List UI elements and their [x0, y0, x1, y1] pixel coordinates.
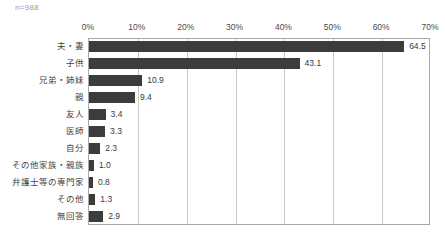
category-label: 無回答 [0, 208, 84, 225]
category-label: 夫・妻 [0, 38, 84, 55]
bar [89, 126, 105, 137]
bar [89, 58, 300, 69]
bar [89, 41, 404, 52]
bar [89, 92, 135, 103]
category-label: 医師 [0, 123, 84, 140]
bar-value-label: 2.9 [108, 208, 120, 225]
chart-rows: 夫・妻64.5子供43.1兄弟・姉妹10.9親9.4友人3.4医師3.3自分2.… [0, 38, 445, 225]
chart-row: 兄弟・姉妹10.9 [0, 72, 445, 89]
x-tick-70: 70% [421, 22, 438, 32]
bar-value-label: 3.3 [110, 123, 122, 140]
chart-row: 親9.4 [0, 89, 445, 106]
bar [89, 177, 93, 188]
chart-row: 医師3.3 [0, 123, 445, 140]
bar [89, 75, 142, 86]
bar-chart: n=988 0%10%20%30%40%50%60%70% 夫・妻64.5子供4… [0, 0, 445, 238]
category-label: 親 [0, 89, 84, 106]
bar-value-label: 10.9 [147, 72, 164, 89]
category-label: その他家族・親族 [0, 157, 84, 174]
bar [89, 194, 95, 205]
chart-row: その他家族・親族1.0 [0, 157, 445, 174]
category-label: 弁護士等の専門家 [0, 174, 84, 191]
chart-row: 自分2.3 [0, 140, 445, 157]
x-tick-30: 30% [226, 22, 243, 32]
bar-value-label: 2.3 [105, 140, 117, 157]
bar-value-label: 3.4 [111, 106, 123, 123]
bar-value-label: 0.8 [98, 174, 110, 191]
chart-row: 弁護士等の専門家0.8 [0, 174, 445, 191]
chart-row: 子供43.1 [0, 55, 445, 72]
bar [89, 143, 100, 154]
bar-value-label: 64.5 [409, 38, 426, 55]
bar-value-label: 43.1 [305, 55, 322, 72]
bar-value-label: 9.4 [140, 89, 152, 106]
chart-row: 無回答2.9 [0, 208, 445, 225]
category-label: 兄弟・姉妹 [0, 72, 84, 89]
x-tick-20: 20% [177, 22, 194, 32]
category-label: その他 [0, 191, 84, 208]
bar [89, 109, 106, 120]
bar [89, 160, 94, 171]
x-tick-50: 50% [324, 22, 341, 32]
category-label: 子供 [0, 55, 84, 72]
chart-row: 友人3.4 [0, 106, 445, 123]
x-axis-tick-labels: 0%10%20%30%40%50%60%70% [88, 22, 430, 36]
sample-size-label: n=988 [15, 3, 39, 12]
bar-value-label: 1.0 [99, 157, 111, 174]
category-label: 自分 [0, 140, 84, 157]
x-tick-0: 0% [82, 22, 94, 32]
bar [89, 211, 103, 222]
x-tick-10: 10% [128, 22, 145, 32]
chart-row: その他1.3 [0, 191, 445, 208]
bar-value-label: 1.3 [100, 191, 112, 208]
x-tick-60: 60% [373, 22, 390, 32]
category-label: 友人 [0, 106, 84, 123]
chart-row: 夫・妻64.5 [0, 38, 445, 55]
x-tick-40: 40% [275, 22, 292, 32]
